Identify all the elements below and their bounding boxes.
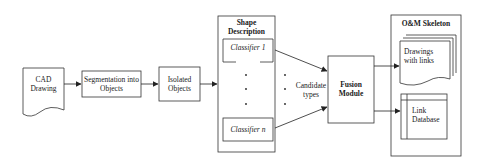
- fusion-line2: Module: [328, 89, 374, 98]
- isolated-objects-label: Isolated Objects: [159, 75, 200, 93]
- seg-label-line2: Objects: [82, 84, 141, 93]
- fusion-module-label: Fusion Module: [328, 80, 374, 98]
- candidate-line1: Candidate: [291, 81, 331, 90]
- shape-title-line1: Shape: [218, 18, 275, 27]
- drawings-line1: Drawings: [404, 47, 444, 56]
- shape-description-title: Shape Description: [218, 18, 275, 36]
- fusion-line1: Fusion: [328, 80, 374, 89]
- iso-label-line1: Isolated: [159, 75, 200, 84]
- arrow-classifier1-to-fusion: [275, 50, 327, 71]
- om-skeleton-title: O&M Skeleton: [391, 19, 461, 28]
- classifier-n-label: Classifier n: [223, 125, 273, 134]
- cad-label-line2: Drawing: [23, 84, 64, 93]
- candidate-line2: types: [291, 90, 331, 99]
- candidate-types-label: Candidate types: [291, 81, 331, 99]
- iso-label-line2: Objects: [159, 84, 200, 93]
- linkdb-line2: Database: [412, 115, 446, 124]
- linkdb-line1: Link: [412, 106, 446, 115]
- drawings-line2: with links: [404, 56, 444, 65]
- cad-drawing-label: CAD Drawing: [23, 75, 64, 93]
- drawings-with-links-label: Drawings with links: [404, 47, 444, 65]
- shape-title-line2: Description: [218, 27, 275, 36]
- classifier-1-label: Classifier 1: [223, 43, 273, 52]
- arrow-classifiern-to-fusion: [275, 107, 327, 128]
- seg-label-line1: Segmentation into: [82, 75, 141, 84]
- link-database-label: Link Database: [412, 106, 446, 124]
- cad-label-line1: CAD: [23, 75, 64, 84]
- segmentation-label: Segmentation into Objects: [82, 75, 141, 93]
